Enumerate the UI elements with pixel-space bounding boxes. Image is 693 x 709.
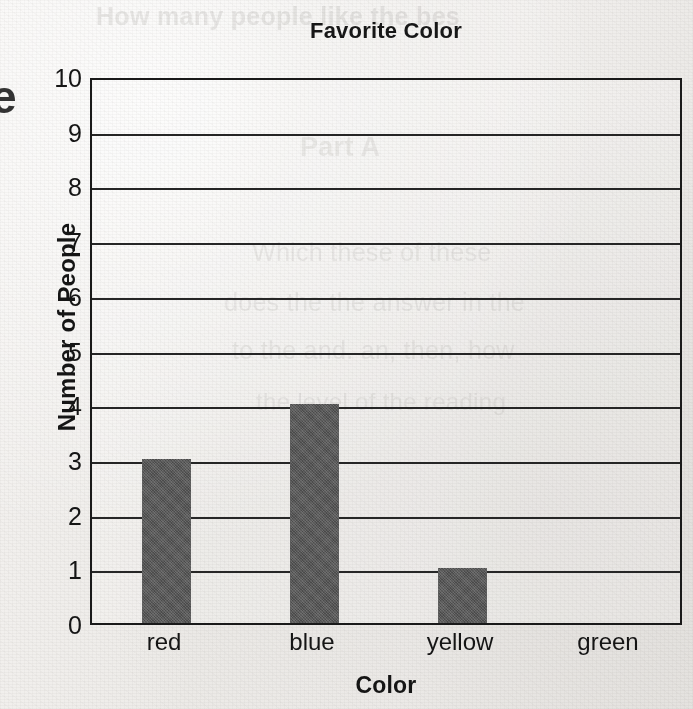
- gridline: [92, 243, 680, 245]
- x-tick-label-red: red: [90, 630, 238, 654]
- x-tick-label-yellow: yellow: [386, 630, 534, 654]
- gridline: [92, 188, 680, 190]
- gridline: [92, 298, 680, 300]
- chart-title: Favorite Color: [90, 18, 682, 44]
- gridline: [92, 134, 680, 136]
- bar-red: [142, 459, 191, 623]
- bar-yellow: [438, 568, 487, 623]
- x-tick-label-green: green: [534, 630, 682, 654]
- x-tick-label-blue: blue: [238, 630, 386, 654]
- y-tick-label: 0: [40, 613, 82, 638]
- gridline: [92, 353, 680, 355]
- x-axis-title: Color: [90, 672, 682, 699]
- scanned-chart-page: How many people like the bes Part A Whic…: [0, 0, 693, 709]
- plot-area: [90, 78, 682, 625]
- gridline: [92, 407, 680, 409]
- bar-blue: [290, 404, 339, 623]
